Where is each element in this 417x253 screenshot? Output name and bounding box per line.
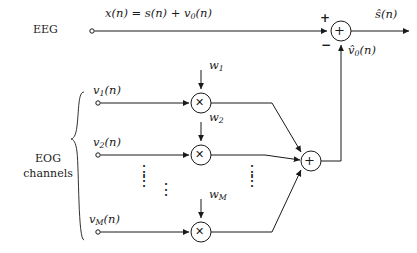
weight-M-label: wM bbox=[209, 187, 227, 202]
eeg-group-label: EEG bbox=[33, 23, 58, 36]
weight-1-label: w1 bbox=[209, 58, 224, 73]
weight-ellipsis: ⋮ ⋮ bbox=[244, 168, 260, 186]
summer-minus-sign: − bbox=[321, 38, 331, 52]
eog2-terminal bbox=[96, 153, 100, 157]
eog-channel-M-label: vM(n) bbox=[89, 212, 120, 227]
output-summer-glyph: + bbox=[334, 23, 345, 38]
multiplier-1-glyph: ✕ bbox=[195, 96, 204, 109]
eog1-terminal bbox=[96, 101, 100, 105]
mult-1-to-summer bbox=[211, 103, 301, 152]
channel-ellipsis-right: ⋮ bbox=[158, 186, 174, 195]
weight-summer-output bbox=[321, 160, 341, 161]
eog-channel-1-label: v1(n) bbox=[93, 83, 121, 98]
summer-plus-sign: + bbox=[320, 11, 330, 25]
estimated-noise-label: v̂0(n) bbox=[348, 43, 376, 58]
diagram-wires bbox=[0, 0, 417, 253]
eog-channel-2-label: v2(n) bbox=[93, 135, 121, 150]
output-signal-label: ŝ(n) bbox=[375, 7, 397, 21]
weight-summer-glyph: + bbox=[304, 153, 315, 168]
multiplier-2-glyph: ✕ bbox=[195, 148, 204, 161]
eog-group-label: EOG channels bbox=[20, 152, 76, 182]
eeg-input-terminal bbox=[90, 29, 94, 33]
mult-2-to-summer bbox=[211, 155, 300, 160]
primary-input-equation: x(n) = s(n) + v0(n) bbox=[105, 6, 212, 21]
multiplier-M-glyph: ✕ bbox=[195, 225, 204, 238]
channel-ellipsis-left: ⋮ ⋮ bbox=[136, 168, 152, 186]
eogM-terminal bbox=[96, 230, 100, 234]
block-diagram: EEG x(n) = s(n) + v0(n) + − + ŝ(n) v̂0(… bbox=[0, 0, 417, 253]
weight-2-label: w2 bbox=[209, 110, 224, 125]
